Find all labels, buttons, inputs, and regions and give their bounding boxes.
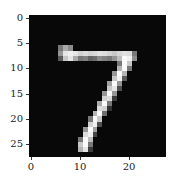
x-tick-label: 20 — [119, 162, 139, 172]
y-tick-mark — [26, 68, 29, 69]
y-tick-label: 10 — [5, 63, 23, 73]
y-tick-mark — [26, 94, 29, 95]
x-tick-mark — [31, 157, 32, 160]
image-plot-area — [29, 15, 166, 157]
x-tick-label: 10 — [70, 162, 90, 172]
y-tick-mark — [26, 144, 29, 145]
y-tick-label: 5 — [5, 38, 23, 48]
x-tick-mark — [129, 157, 130, 160]
pixel-cell — [161, 152, 166, 157]
y-tick-mark — [26, 43, 29, 44]
y-tick-mark — [26, 119, 29, 120]
x-tick-label: 0 — [21, 162, 41, 172]
y-tick-label: 15 — [5, 89, 23, 99]
y-tick-mark — [26, 18, 29, 19]
y-tick-label: 0 — [5, 13, 23, 23]
digit-image — [29, 15, 166, 157]
y-tick-label: 25 — [5, 139, 23, 149]
y-tick-label: 20 — [5, 114, 23, 124]
x-tick-mark — [80, 157, 81, 160]
